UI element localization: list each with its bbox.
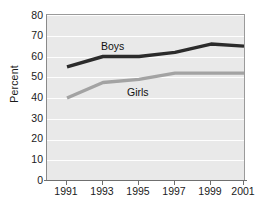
x-tick-2001: 2001 bbox=[223, 185, 261, 197]
x-tick-1993: 1993 bbox=[82, 185, 122, 197]
y-tick-40: 40 bbox=[1, 91, 43, 103]
x-tick-1991: 1991 bbox=[46, 185, 86, 197]
x-tick-1995: 1995 bbox=[118, 185, 158, 197]
y-tick-80: 80 bbox=[1, 9, 43, 21]
y-tick-30: 30 bbox=[1, 112, 43, 124]
series-label-boys: Boys bbox=[101, 40, 124, 52]
x-tick-1997: 1997 bbox=[154, 185, 194, 197]
series-line-girls bbox=[67, 73, 244, 98]
y-tick-60: 60 bbox=[1, 50, 43, 62]
y-tick-20: 20 bbox=[1, 132, 43, 144]
y-axis-tick-labels: 80 70 60 50 40 30 20 10 0 bbox=[0, 0, 43, 213]
y-tick-50: 50 bbox=[1, 70, 43, 82]
series-line-boys bbox=[67, 44, 244, 67]
x-axis-line bbox=[44, 180, 247, 181]
y-tick-10: 10 bbox=[1, 153, 43, 165]
y-tick-0: 0 bbox=[1, 174, 43, 186]
series-label-girls: Girls bbox=[127, 86, 149, 98]
line-chart: Percent 80 70 60 50 40 30 20 10 0 Boys G… bbox=[0, 0, 261, 213]
y-tick-70: 70 bbox=[1, 29, 43, 41]
